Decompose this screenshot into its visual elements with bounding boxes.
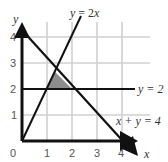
- label-y-equals-2: y = 2: [137, 82, 163, 96]
- x-tick-3: 3: [94, 147, 100, 159]
- y-tick-2: 2: [10, 83, 16, 95]
- y-axis-label: y: [12, 12, 19, 26]
- y-tick-3: 3: [10, 57, 16, 69]
- label-x-plus-y-equals-4: x + y = 4: [115, 114, 161, 128]
- x-tick-2: 2: [69, 147, 75, 159]
- y-tick-1: 1: [11, 109, 17, 121]
- x-tick-1: 1: [44, 147, 50, 159]
- graph-diagram: 0 1 2 3 4 1 2 3 4 y x y = 2x y = 2 x + y…: [0, 0, 168, 162]
- label-y-equals-2x: y = 2x: [69, 6, 100, 20]
- origin-label: 0: [10, 147, 16, 159]
- x-axis-label: x: [143, 147, 150, 161]
- x-tick-4: 4: [118, 147, 124, 159]
- y-tick-4: 4: [10, 31, 16, 43]
